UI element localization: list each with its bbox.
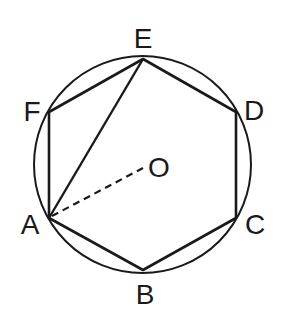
label-d: D <box>244 95 264 126</box>
label-o: O <box>148 152 170 183</box>
label-a: A <box>21 209 40 240</box>
segment-ae <box>49 59 143 218</box>
label-e: E <box>134 23 153 54</box>
hexagon-circle-diagram: E F D O A C B <box>0 0 282 316</box>
label-f: F <box>23 96 40 127</box>
label-c: C <box>245 209 265 240</box>
label-b: B <box>136 279 155 310</box>
circumcircle <box>34 56 251 273</box>
hexagon-abcdef <box>49 59 236 270</box>
